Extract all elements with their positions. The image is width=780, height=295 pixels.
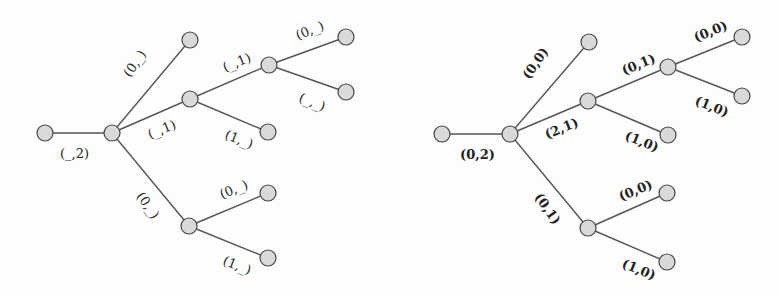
- left-tree-edge-label: (0,_): [218, 177, 251, 202]
- left-tree-edge: [269, 37, 346, 65]
- right-tree-node: [660, 59, 676, 75]
- left-tree-edge-label: (_,1): [221, 50, 254, 75]
- right-tree-edge-label: (0,0): [617, 177, 655, 204]
- left-tree-edge: [269, 65, 346, 92]
- right-tree-node: [660, 127, 676, 143]
- right-tree-edge-label: (1,0): [693, 93, 731, 120]
- right-tree-edge-label: (0,2): [460, 147, 495, 162]
- right-tree-node: [580, 93, 596, 109]
- right-tree-edge-label: (1,0): [620, 256, 658, 283]
- left-tree-edge: [112, 40, 190, 133]
- left-tree-edge-label: (1,_): [223, 127, 256, 152]
- tree-diagram-figure: (_,2)(0,_)(_,1)(_,1)(0,_)(_,_)(1,_)(0,_)…: [0, 0, 780, 295]
- left-tree-node: [260, 185, 276, 201]
- right-tree-node: [734, 29, 750, 45]
- right-tree-edge: [668, 67, 742, 96]
- left-tree-node: [37, 125, 53, 141]
- left-tree-node: [182, 32, 198, 48]
- right-tree-node: [502, 126, 518, 142]
- right-tree: (0,2)(0,0)(2,1)(0,1)(0,0)(1,0)(1,0)(0,1)…: [434, 18, 750, 283]
- left-tree-node: [104, 125, 120, 141]
- left-tree-edge-label: (_,2): [60, 146, 89, 161]
- left-tree-edge-label: (_,_): [297, 90, 328, 114]
- right-tree-edge-label: (1,0): [623, 128, 661, 155]
- right-tree-edge-label: (2,1): [543, 115, 581, 142]
- right-tree-node: [581, 34, 597, 50]
- left-tree-edge-label: (0,_): [294, 18, 327, 43]
- right-tree-edge-label: (0,0): [519, 45, 551, 82]
- left-tree-edge-label: (_,1): [146, 117, 179, 142]
- left-tree-node: [261, 57, 277, 73]
- left-tree-node: [338, 29, 354, 45]
- left-tree-edge-label: (1,_): [221, 253, 254, 278]
- left-tree-node: [260, 124, 276, 140]
- left-tree-node: [260, 250, 276, 266]
- left-tree-node: [182, 91, 198, 107]
- right-tree-edge-label: (0,0): [692, 18, 730, 45]
- right-tree-node: [659, 254, 675, 270]
- diagram-svg: (_,2)(0,_)(_,1)(_,1)(0,_)(_,_)(1,_)(0,_)…: [0, 0, 780, 295]
- left-tree-edge-label: (0,_): [120, 47, 149, 79]
- right-tree-node: [580, 220, 596, 236]
- right-tree-node: [659, 185, 675, 201]
- left-tree-edge-label: (0,_): [134, 189, 163, 221]
- right-tree-node: [434, 126, 450, 142]
- right-tree-edge-label: (0,1): [532, 190, 564, 227]
- left-tree-node: [181, 218, 197, 234]
- left-tree-node: [338, 84, 354, 100]
- right-tree-node: [734, 88, 750, 104]
- left-tree: (_,2)(0,_)(_,1)(_,1)(0,_)(_,_)(1,_)(0,_)…: [37, 18, 354, 278]
